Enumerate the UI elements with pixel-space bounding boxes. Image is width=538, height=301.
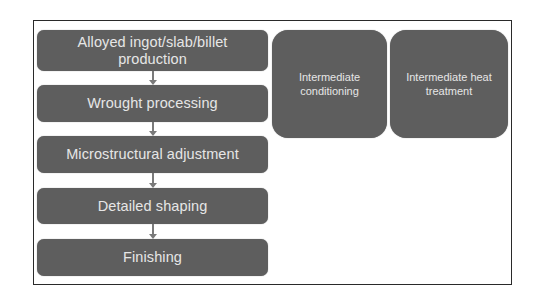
step-ingot-production: Alloyed ingot/slab/billet production — [37, 30, 268, 71]
step-finishing: Finishing — [37, 239, 268, 276]
step-detailed-shaping: Detailed shaping — [37, 188, 268, 224]
step-microstructural-adjustment: Microstructural adjustment — [37, 136, 268, 173]
side-box-intermediate-heat-treatment: Intermediate heat treatment — [390, 30, 508, 138]
arrow-down-icon — [149, 71, 157, 85]
arrow-down-icon — [149, 224, 157, 239]
arrow-down-icon — [149, 173, 157, 188]
step-wrought-processing: Wrought processing — [37, 85, 268, 122]
side-box-intermediate-conditioning: Intermediate conditioning — [272, 30, 387, 138]
arrow-down-icon — [149, 122, 157, 136]
